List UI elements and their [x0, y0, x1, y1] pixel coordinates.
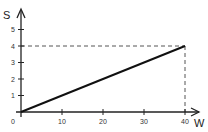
svg-text:10: 10: [58, 118, 66, 125]
svg-text:2: 2: [11, 76, 15, 83]
svg-text:1: 1: [11, 92, 15, 99]
svg-text:40: 40: [181, 118, 189, 125]
x-axis-label: W: [194, 117, 205, 129]
svg-text:4: 4: [11, 43, 15, 50]
y-tick-labels: 1 2 3 4 5: [11, 26, 15, 99]
svg-text:20: 20: [99, 118, 107, 125]
svg-text:3: 3: [11, 59, 15, 66]
svg-text:30: 30: [140, 118, 148, 125]
data-line: [21, 46, 185, 112]
chart: 1 2 3 4 5 0 10 20 30 40 S W: [0, 0, 208, 132]
svg-text:5: 5: [11, 26, 15, 33]
svg-text:0: 0: [11, 118, 15, 125]
x-tick-labels: 0 10 20 30 40: [11, 118, 189, 125]
y-axis-label: S: [3, 9, 10, 21]
